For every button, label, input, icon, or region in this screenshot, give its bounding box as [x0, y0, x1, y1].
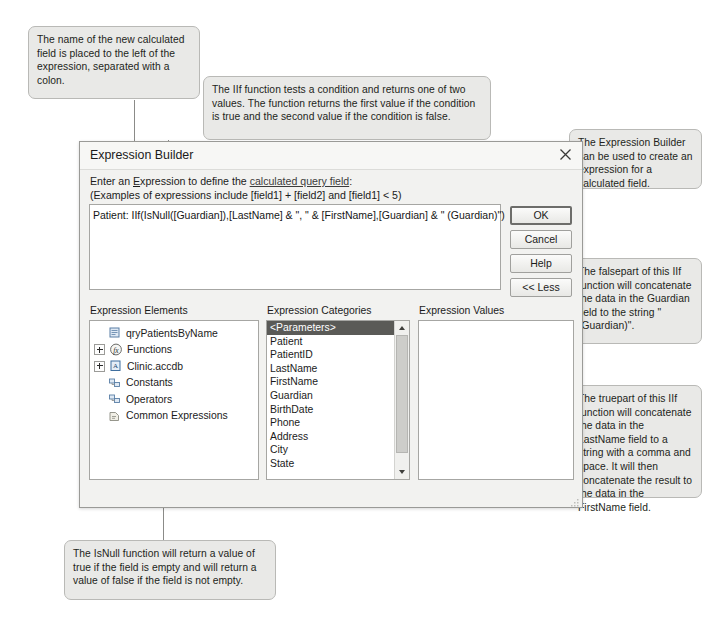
expression-elements-header: Expression Elements — [90, 305, 188, 316]
less-button[interactable]: << Less — [510, 278, 572, 297]
list-item[interactable]: City — [267, 443, 394, 457]
tree-item-label: Constants — [126, 377, 173, 388]
calculated-query-field-link[interactable]: calculated query field — [250, 175, 350, 187]
database-icon: A — [108, 360, 123, 372]
expression-categories-header: Expression Categories — [267, 305, 372, 316]
expand-clinic-icon[interactable] — [94, 361, 105, 372]
callout-truepart: The truepart of this IIf function will c… — [569, 385, 702, 498]
tree-item-operators[interactable]: Operators — [94, 391, 258, 408]
list-item[interactable]: Address — [267, 430, 394, 444]
examples-text: (Examples of expressions include [field1… — [90, 189, 402, 201]
tree-item-label: qryPatientsByName — [126, 328, 218, 339]
svg-text:fx: fx — [113, 346, 119, 355]
expression-elements-panel[interactable]: qryPatientsByName fx Functions A — [89, 320, 259, 480]
list-item[interactable]: BirthDate — [267, 403, 394, 417]
scroll-up-icon[interactable] — [395, 321, 409, 335]
instruction-mid: xpression to define the — [140, 175, 250, 187]
expression-values-panel[interactable] — [418, 320, 574, 480]
tree-item-constants[interactable]: Constants — [94, 375, 258, 392]
tree-item-common-expressions[interactable]: Common Expressions — [94, 408, 258, 425]
categories-scrollbar[interactable] — [394, 321, 409, 479]
expression-builder-dialog: Expression Builder Enter an Expression t… — [79, 141, 583, 508]
expression-categories-panel[interactable]: <Parameters> Patient PatientID LastName … — [266, 320, 410, 480]
scrollbar-thumb[interactable] — [396, 335, 408, 453]
caret-down-icon — [399, 470, 405, 474]
expand-functions-icon[interactable] — [94, 344, 105, 355]
caret-up-icon — [399, 326, 405, 330]
instruction-suffix: : — [349, 175, 352, 187]
callout-iif-function: The IIf function tests a condition and r… — [203, 76, 491, 140]
tree-item-label: Common Expressions — [126, 410, 228, 421]
list-item[interactable]: Phone — [267, 416, 394, 430]
list-item[interactable]: FirstName — [267, 375, 394, 389]
common-expressions-icon — [107, 410, 122, 422]
tree-item-label: Operators — [126, 394, 172, 405]
tree-item-label: Clinic.accdb — [127, 361, 183, 372]
list-item[interactable]: Patient — [267, 335, 394, 349]
ok-button[interactable]: OK — [510, 206, 572, 225]
categories-list[interactable]: <Parameters> Patient PatientID LastName … — [267, 321, 394, 471]
callout-falsepart: The falsepart of this IIf function will … — [569, 258, 702, 344]
query-icon — [107, 327, 122, 339]
dialog-title: Expression Builder — [90, 148, 193, 162]
svg-text:A: A — [113, 363, 118, 371]
tree-item-label: Functions — [127, 344, 172, 355]
expression-text: Patient: IIf(IsNull([Guardian]),[LastNam… — [93, 208, 505, 222]
function-icon: fx — [108, 343, 123, 356]
tree-item-qrypatientsbyname[interactable]: qryPatientsByName — [94, 325, 258, 342]
operators-icon — [107, 393, 122, 405]
close-icon[interactable] — [557, 146, 574, 163]
instruction-prefix: Enter an — [90, 175, 133, 187]
tree-item-clinic-accdb[interactable]: A Clinic.accdb — [94, 358, 258, 375]
constants-icon — [107, 377, 122, 389]
callout-name-field: The name of the new calculated field is … — [28, 26, 200, 99]
cancel-button[interactable]: Cancel — [510, 230, 572, 249]
list-item[interactable]: State — [267, 457, 394, 471]
dialog-title-bar: Expression Builder — [80, 142, 582, 170]
list-item[interactable]: LastName — [267, 362, 394, 376]
callout-expression-builder: The Expression Builder can be used to cr… — [569, 129, 702, 189]
list-item[interactable]: PatientID — [267, 348, 394, 362]
resize-grip[interactable] — [569, 494, 580, 505]
list-item[interactable]: Guardian — [267, 389, 394, 403]
help-button[interactable]: Help — [510, 254, 572, 273]
scroll-down-icon[interactable] — [395, 465, 409, 479]
list-item[interactable]: <Parameters> — [267, 321, 394, 335]
expression-input[interactable]: Patient: IIf(IsNull([Guardian]),[LastNam… — [89, 204, 501, 290]
expression-values-header: Expression Values — [419, 305, 504, 316]
tree-item-functions[interactable]: fx Functions — [94, 342, 258, 359]
callout-isnull: The IsNull function will return a value … — [64, 540, 276, 600]
instruction-text: Enter an Expression to define the calcul… — [90, 175, 352, 187]
elements-tree: qryPatientsByName fx Functions A — [90, 321, 258, 424]
